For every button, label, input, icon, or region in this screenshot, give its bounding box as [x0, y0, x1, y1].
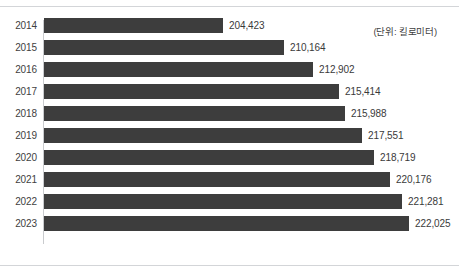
bar — [44, 172, 390, 187]
bar-track: 212,902 — [44, 62, 459, 77]
bar-category-label: 2017 — [0, 84, 37, 99]
bar-category-label: 2022 — [0, 194, 37, 209]
plot-area: 2014204,4232015210,1642016212,9022017215… — [0, 18, 459, 258]
bar-value-label: 217,551 — [368, 128, 403, 143]
bar-track: 204,423 — [44, 18, 459, 33]
bar-row: 2015210,164 — [0, 40, 459, 62]
bar-row: 2022221,281 — [0, 194, 459, 216]
bar — [44, 84, 339, 99]
bar-track: 220,176 — [44, 172, 459, 187]
bar-row: 2017215,414 — [0, 84, 459, 106]
bar — [44, 150, 374, 165]
bar-rows: 2014204,4232015210,1642016212,9022017215… — [0, 18, 459, 238]
bar-value-label: 220,176 — [396, 172, 431, 187]
bar-category-label: 2014 — [0, 18, 37, 33]
bar — [44, 18, 223, 33]
bar-category-label: 2020 — [0, 150, 37, 165]
bar-value-label: 212,902 — [319, 62, 354, 77]
bar-track: 215,414 — [44, 84, 459, 99]
bar-row: 2020218,719 — [0, 150, 459, 172]
bar — [44, 128, 362, 143]
bar-track: 215,988 — [44, 106, 459, 121]
bar — [44, 216, 409, 231]
bar-value-label: 215,988 — [351, 106, 386, 121]
bar-row: 2016212,902 — [0, 62, 459, 84]
bar-value-label: 218,719 — [380, 150, 415, 165]
bar-track: 222,025 — [44, 216, 459, 231]
bar-value-label: 204,423 — [229, 18, 264, 33]
bar-row: 2021220,176 — [0, 172, 459, 194]
bar — [44, 62, 313, 77]
bar-category-label: 2023 — [0, 216, 37, 231]
bar-row: 2014204,423 — [0, 18, 459, 40]
bar-category-label: 2021 — [0, 172, 37, 187]
bar-category-label: 2019 — [0, 128, 37, 143]
bar-category-label: 2018 — [0, 106, 37, 121]
top-divider — [0, 6, 459, 7]
bar-track: 217,551 — [44, 128, 459, 143]
bar-category-label: 2015 — [0, 40, 37, 55]
bar-chart-figure: (단위: 킬로미터) 2014204,4232015210,1642016212… — [0, 0, 459, 278]
bar-category-label: 2016 — [0, 62, 37, 77]
bar-value-label: 215,414 — [345, 84, 380, 99]
bar-row: 2023222,025 — [0, 216, 459, 238]
bar-value-label: 210,164 — [290, 40, 325, 55]
bar — [44, 106, 345, 121]
bar-track: 210,164 — [44, 40, 459, 55]
bar-row: 2018215,988 — [0, 106, 459, 128]
bar — [44, 194, 402, 209]
bar — [44, 40, 284, 55]
bar-value-label: 221,281 — [408, 194, 443, 209]
bar-value-label: 222,025 — [415, 216, 450, 231]
bar-row: 2019217,551 — [0, 128, 459, 150]
bar-track: 221,281 — [44, 194, 459, 209]
bottom-divider — [0, 265, 459, 266]
bar-track: 218,719 — [44, 150, 459, 165]
